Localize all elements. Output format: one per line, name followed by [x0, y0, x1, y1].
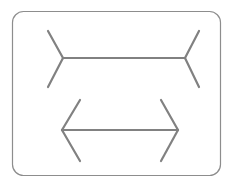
rounded-rectangle-border: [13, 12, 221, 176]
illusion-canvas: [0, 0, 233, 188]
muller-lyer-illustration: [0, 0, 233, 188]
